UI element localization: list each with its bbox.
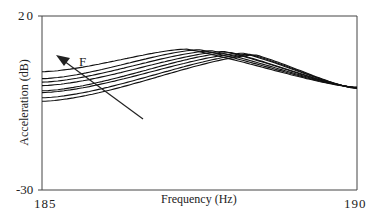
arrow-label: F bbox=[79, 54, 86, 70]
x-tick-left: 185 bbox=[34, 196, 57, 212]
y-tick-bottom: -30 bbox=[16, 182, 33, 198]
response-curves bbox=[42, 49, 357, 101]
y-tick-top: 20 bbox=[18, 8, 35, 24]
x-tick-right: 190 bbox=[344, 196, 367, 212]
y-axis-label: Acceleration (dB) bbox=[17, 53, 32, 153]
x-axis-label: Frequency (Hz) bbox=[161, 192, 237, 207]
trend-arrow bbox=[56, 55, 143, 119]
response-curve bbox=[42, 50, 357, 88]
plot-frame bbox=[38, 16, 357, 190]
chart-canvas bbox=[0, 0, 382, 219]
response-curve bbox=[42, 53, 357, 92]
